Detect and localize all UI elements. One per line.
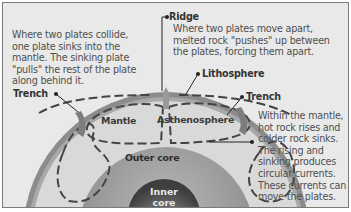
asthenosphere-label: Asthenosphere xyxy=(157,114,234,125)
inner-core-line1: Inner xyxy=(150,186,178,197)
collide-annotation: Where two plates collide, one plate sink… xyxy=(12,29,137,87)
ridge-label: Ridge xyxy=(169,11,199,22)
mantle-label: Mantle xyxy=(101,115,136,126)
ridge-annotation: Where two plates move apart, melted rock… xyxy=(173,23,343,58)
outer-core-label: Outer core xyxy=(125,152,179,163)
inner-core-line2: core xyxy=(153,197,176,208)
convection-annotation: Within the mantle, hot rock rises and co… xyxy=(258,110,349,203)
trench-right-label: Trench xyxy=(246,91,281,102)
lithosphere-label: Lithosphere xyxy=(202,68,264,79)
inner-core-label: Inner core xyxy=(143,186,185,208)
trench-left-label: Trench xyxy=(13,88,48,99)
diagram-frame: Where two plates collide, one plate sink… xyxy=(2,2,349,208)
